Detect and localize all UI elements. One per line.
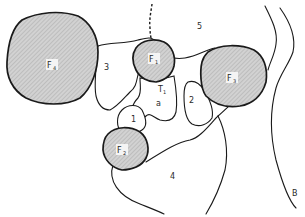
label-f2: F 2 <box>116 144 128 156</box>
svg-text:1: 1 <box>155 59 158 65</box>
label-1: 1 <box>131 115 136 124</box>
region-4-boundary <box>112 165 164 214</box>
dashed-line <box>150 4 152 42</box>
boundary-b-outer <box>272 8 297 208</box>
region-4-right-boundary <box>206 116 227 214</box>
label-a: a <box>156 99 161 108</box>
svg-text:F: F <box>47 61 52 70</box>
label-3: 3 <box>104 63 109 72</box>
label-b: B <box>292 189 298 198</box>
diagram-canvas: F 4 F 1 F 3 F 2 3 5 T 1 a 1 2 4 B <box>0 0 305 217</box>
label-f3: F 3 <box>226 72 238 84</box>
svg-text:F: F <box>149 55 154 64</box>
label-5: 5 <box>197 22 202 31</box>
svg-text:F: F <box>117 146 122 155</box>
svg-text:1: 1 <box>163 89 166 95</box>
label-2: 2 <box>189 96 194 105</box>
svg-text:4: 4 <box>53 65 56 71</box>
label-f1: F 1 <box>148 53 160 65</box>
svg-text:3: 3 <box>233 78 236 84</box>
svg-text:2: 2 <box>123 150 126 156</box>
label-f4: F 4 <box>46 59 58 71</box>
boundary-b-inner <box>265 6 276 70</box>
region-f4 <box>7 13 98 104</box>
svg-text:F: F <box>227 74 232 83</box>
label-4: 4 <box>170 172 175 181</box>
